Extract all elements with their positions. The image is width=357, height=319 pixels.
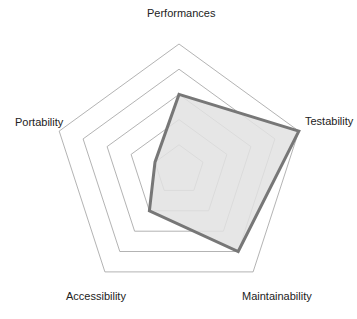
axis-label-accessibility: Accessibility — [66, 290, 126, 302]
data-series-polygon — [149, 94, 298, 251]
radar-chart — [0, 0, 357, 319]
axis-label-maintainability: Maintainability — [242, 290, 312, 302]
axis-label-testability: Testability — [305, 115, 353, 127]
axis-label-portability: Portability — [15, 116, 63, 128]
axis-label-performances: Performances — [147, 7, 215, 19]
